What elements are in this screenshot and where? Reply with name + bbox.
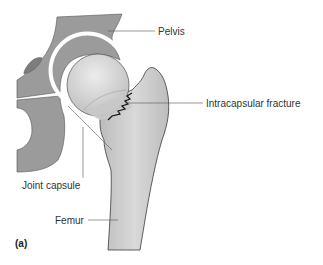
panel-label: (a) [15, 238, 27, 249]
label-femur: Femur [55, 215, 85, 226]
label-intracapsular-fracture: Intracapsular fracture [206, 98, 301, 109]
pelvis-lower [17, 96, 65, 172]
label-joint-capsule: Joint capsule [22, 180, 81, 191]
hip-diagram: Pelvis Intracapsular fracture Joint caps… [0, 0, 323, 265]
label-pelvis: Pelvis [158, 26, 185, 37]
